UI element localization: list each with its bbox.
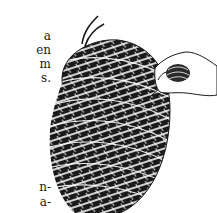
cord-ball-illustration [0, 0, 217, 213]
